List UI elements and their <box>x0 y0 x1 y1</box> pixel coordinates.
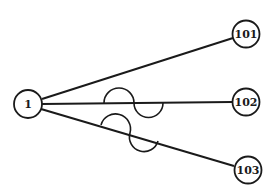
node-101: 101 <box>233 21 260 48</box>
edge-1-102 <box>42 102 232 104</box>
edge-1-101 <box>42 38 233 99</box>
node-1: 1 <box>14 90 42 118</box>
node-102-label: 102 <box>235 96 258 109</box>
edge-1-103 <box>41 109 234 166</box>
node-1-label: 1 <box>24 98 32 111</box>
wave-symbol-edge-103 <box>101 114 158 152</box>
graph-diagram: 1 101 102 103 <box>0 0 272 194</box>
node-102: 102 <box>233 89 260 116</box>
node-101-label: 101 <box>235 28 258 41</box>
node-103: 103 <box>235 157 262 184</box>
node-103-label: 103 <box>237 164 260 177</box>
